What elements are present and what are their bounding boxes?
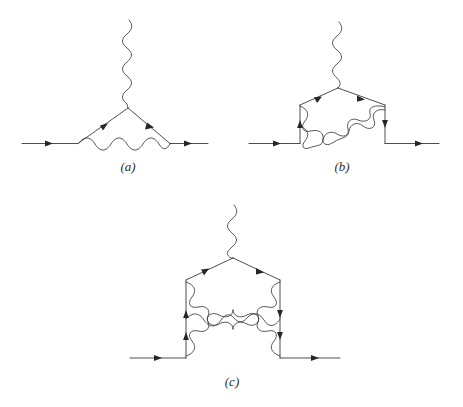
arrow-outgoing-b [415, 141, 423, 147]
arrow-left-leg-a [100, 123, 108, 130]
arrow-right-upper-c [256, 268, 264, 275]
arrow-outgoing-c [311, 355, 319, 361]
figure-canvas: (a) (b) [0, 0, 463, 407]
fermion-left-upper-c [186, 258, 233, 280]
photon-internal-e-c [233, 310, 280, 356]
fermion-left-upper-b [300, 88, 338, 105]
arrow-incoming-c [154, 355, 162, 361]
feynman-diagram-b [231, 0, 463, 160]
arrow-right-vertical-lower-c [277, 332, 283, 340]
page-speck: · [447, 292, 449, 300]
arrow-right-vertical-b [382, 120, 388, 128]
feynman-diagram-a [0, 0, 231, 160]
photon-external-c [227, 205, 236, 258]
arrow-left-upper-b [314, 97, 322, 104]
feynman-diagram-c [100, 195, 363, 395]
arrow-left-vertical-upper-c [183, 310, 189, 318]
arrow-left-vertical-b [297, 120, 303, 128]
photon-internal-d-c [186, 310, 233, 356]
arrow-incoming-b [273, 141, 281, 147]
photon-internal-a-c [186, 282, 233, 329]
panel-label-b: (b) [322, 159, 362, 175]
panel-label-a: (a) [108, 159, 148, 175]
arrow-outgoing-a [184, 141, 192, 147]
arrow-incoming-a [45, 141, 53, 147]
arrow-left-vertical-lower-c [183, 332, 189, 340]
photon-internal-a [79, 138, 170, 150]
arrow-right-vertical-upper-c [277, 310, 283, 318]
photon-internal-upper-b [300, 106, 385, 145]
photon-external-b [333, 22, 342, 88]
photon-internal-c-c [186, 314, 280, 326]
panel-label-c: (c) [212, 374, 252, 390]
photon-external-a [123, 20, 132, 108]
photon-internal-lower-b [300, 106, 385, 149]
fermion-right-upper-b [338, 88, 385, 105]
